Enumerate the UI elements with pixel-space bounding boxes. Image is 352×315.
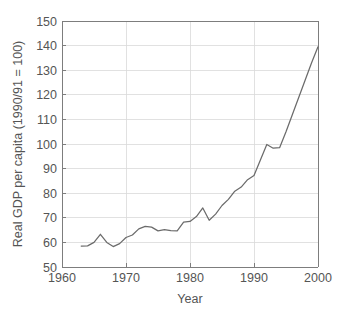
y-tick-label: 90	[43, 162, 57, 176]
y-tick-label: 60	[43, 236, 57, 250]
line-chart: 150 140 130 120 110 100 90 80 70 60 50 1…	[0, 0, 352, 315]
y-tick-label: 70	[43, 211, 57, 225]
x-axis-title: Year	[177, 292, 202, 306]
y-tick-label: 110	[37, 113, 57, 127]
y-tick-label: 130	[36, 64, 57, 78]
x-tick-label: 1970	[112, 271, 140, 285]
x-tick-label: 1960	[48, 271, 76, 285]
gridlines	[62, 21, 318, 267]
x-tick-label: 2000	[304, 271, 332, 285]
data-series-line	[81, 47, 318, 247]
chart-figure: 150 140 130 120 110 100 90 80 70 60 50 1…	[0, 0, 352, 315]
y-axis-title: Real GDP per capita (1990/91 = 100)	[11, 41, 25, 248]
y-tick-label: 80	[43, 187, 57, 201]
y-tick-marks	[62, 21, 66, 267]
x-tick-label: 1990	[240, 271, 268, 285]
y-tick-labels: 150 140 130 120 110 100 90 80 70 60 50	[36, 15, 57, 275]
y-tick-label: 100	[36, 138, 57, 152]
x-tick-labels: 1960 1970 1980 1990 2000	[48, 271, 332, 285]
x-tick-marks	[62, 263, 318, 267]
x-tick-label: 1980	[176, 271, 204, 285]
y-tick-label: 150	[36, 15, 57, 29]
y-tick-label: 120	[36, 88, 57, 102]
y-tick-label: 140	[36, 39, 57, 53]
